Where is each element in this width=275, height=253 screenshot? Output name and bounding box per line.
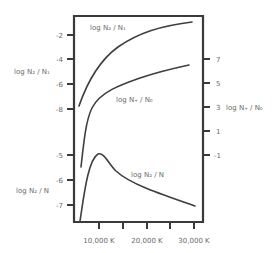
- plot-frame: [74, 16, 203, 222]
- left-upper-axis: -2 -4 -6 -8 log N₂ / N₁: [14, 32, 74, 114]
- curve-n2-n1: [79, 22, 192, 106]
- curve-label-low: log N₂ / N: [131, 171, 164, 179]
- curve-n2-n: [80, 154, 195, 221]
- x-tick-label: 10,000 K: [83, 237, 115, 245]
- x-tick-label: 30,000 K: [178, 237, 210, 245]
- axis-label-left-upper: log N₂ / N₁: [14, 68, 50, 76]
- tick-label: -5: [56, 152, 63, 160]
- tick-label: 5: [216, 80, 220, 88]
- x-tick-label: 20,000 K: [131, 237, 163, 245]
- left-lower-axis: -5 -6 -7 log N₂ / N: [16, 152, 74, 210]
- axis-label-left-lower: log N₂ / N: [16, 187, 49, 195]
- curve-nplus-n0: [81, 65, 189, 167]
- tick-label: 7: [216, 56, 220, 64]
- axis-label-right: log N₊ / N₀: [226, 104, 263, 112]
- tick-label: -6: [56, 81, 64, 89]
- tick-label: -2: [56, 32, 63, 40]
- tick-label: -6: [56, 177, 64, 185]
- right-axis: 7 5 3 1 -1 log N₊ / N₀: [203, 56, 263, 160]
- tick-label: 3: [216, 104, 220, 112]
- x-axis: 10,000 K 20,000 K 30,000 K: [83, 222, 210, 245]
- tick-label: -4: [56, 56, 64, 64]
- temperature-ratio-chart: -2 -4 -6 -8 log N₂ / N₁ -5 -6 -7 log N₂ …: [0, 0, 275, 253]
- tick-label: 1: [216, 128, 220, 136]
- tick-label: -7: [56, 202, 63, 210]
- curve-label-top: log N₂ / N₁: [90, 24, 126, 32]
- tick-label: -8: [56, 106, 63, 114]
- tick-label: -1: [214, 152, 221, 160]
- curve-label-mid: log N₊ / N₀: [116, 96, 153, 104]
